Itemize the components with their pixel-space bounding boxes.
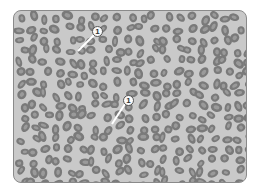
leader-line	[78, 35, 94, 51]
callout-label: 1	[126, 96, 130, 105]
callout-marker: 1	[123, 95, 134, 106]
callout-marker: 1	[92, 26, 103, 37]
callout-label: 1	[95, 27, 99, 36]
leader-line	[112, 104, 125, 124]
